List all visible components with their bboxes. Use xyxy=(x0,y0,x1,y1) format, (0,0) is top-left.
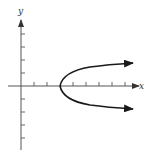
parabola-upper-branch xyxy=(60,63,133,86)
parabola-lower-branch xyxy=(60,86,133,109)
x-axis-ticks xyxy=(34,82,125,86)
x-axis-label: x xyxy=(139,81,144,91)
parabola-graph: y x xyxy=(0,0,145,154)
y-axis-label: y xyxy=(17,6,24,16)
